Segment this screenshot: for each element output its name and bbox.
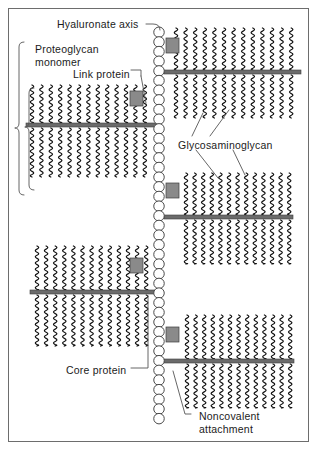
hyaluronate-unit-circle [154,143,165,154]
gag-chain-lower [185,364,188,408]
gag-chain-upper [106,85,109,123]
gag-chain-upper [203,315,206,359]
gag-chain-upper [236,173,239,215]
gag-chain-lower [270,75,273,118]
gag-chain-upper [30,85,33,123]
leader-link-protein [131,70,141,76]
gag-chain-upper [99,246,102,290]
gag-chain-lower [54,295,57,346]
gag-chain-lower [232,75,235,118]
hyaluronate-unit-circle [154,211,165,222]
gag-chain-lower [30,128,33,177]
hyaluronate-unit-circle [154,75,165,86]
core-protein-bar [164,359,294,363]
core-protein-bar [164,70,301,74]
gag-chain-lower [81,295,84,346]
gag-chain-upper [232,28,235,70]
hyaluronate-unit-circle [154,288,165,299]
gag-chain-lower [251,75,254,118]
gag-chain-lower [253,220,256,264]
gag-chain-lower [262,220,265,264]
gag-chain-upper [202,173,205,215]
link-protein-square [166,327,179,342]
hyaluronate-unit-circle [154,37,165,48]
monomer-left-1 [26,85,156,177]
label-glycosaminoglycan: Glycosaminoglycan [178,139,273,152]
gag-chain-upper [220,315,223,359]
hyaluronate-unit-circle [154,297,165,308]
gag-chain-upper [210,173,213,215]
gag-chain-lower [40,128,43,177]
gag-chain-upper [245,173,248,215]
gag-chain-lower [219,220,222,264]
gag-chain-upper [184,173,187,215]
label-proteoglycan-monomer: Proteoglycan monomer [35,43,99,68]
hyaluronate-unit-circle [154,95,165,106]
gag-chain-upper [49,85,52,123]
gag-chain-upper [242,28,245,70]
gag-chain-upper [213,28,216,70]
core-protein-bar [30,290,156,294]
gag-chain-lower [246,364,249,408]
gag-chain-lower [227,220,230,264]
hyaluronate-unit-circle [154,269,165,280]
gag-chain-upper [185,315,188,359]
proteoglycan-aggregate-figure: Hyaluronate axis Proteoglycan monomer Li… [0,0,319,457]
leader-gag-left [192,113,203,136]
gag-chain-lower [63,295,66,346]
gag-chain-upper [279,173,282,215]
hyaluronate-unit-circle [154,249,165,260]
hyaluronate-unit-circle [154,191,165,202]
gag-chain-lower [211,364,214,408]
gag-chain-upper [77,85,80,123]
gag-chain-upper [203,28,206,70]
hyaluronate-unit-circle [154,230,165,241]
gag-chain-upper [193,173,196,215]
link-protein-square [166,183,179,198]
gag-chain-lower [210,220,213,264]
gag-chain-upper [96,85,99,123]
gag-chain-lower [270,220,273,264]
gag-chain-lower [254,364,257,408]
gag-chain-upper [145,246,148,290]
hyaluronate-unit-circle [154,104,165,115]
gag-chain-upper [288,173,291,215]
hyaluronate-unit-circle [154,114,165,125]
gag-chain-lower [49,128,52,177]
gag-chain-upper [44,246,47,290]
monomer-bracket-inner [25,88,34,190]
gag-chain-lower [135,295,138,346]
gag-chain-upper [253,173,256,215]
hyaluronate-unit-circle [154,355,165,366]
core-protein-bar [26,123,156,127]
hyaluronate-unit-circle [154,182,165,193]
leader-hyaluronate-axis [146,24,160,30]
hyaluronate-unit-circle [154,133,165,144]
gag-chain-lower [290,75,293,118]
gag-chain-lower [108,295,111,346]
hyaluronate-unit-circle [154,278,165,289]
gag-chain-upper [194,28,197,70]
gag-chain-lower [77,128,80,177]
hyaluronate-unit-circle [154,56,165,66]
gag-chain-upper [270,28,273,70]
gag-chain-upper [134,85,137,123]
leader-noncovalent [173,371,191,414]
label-noncovalent-attachment: Noncovalent attachment [199,410,260,435]
gag-chain-upper [184,28,187,70]
gag-chain-upper [81,246,84,290]
gag-chain-upper [174,28,177,70]
gag-chain-upper [289,315,292,359]
gag-chain-upper [270,173,273,215]
hyaluronate-unit-circle [154,220,165,231]
hyaluronate-unit-circle [154,201,165,212]
gag-chain-upper [227,173,230,215]
gag-chain-upper [246,315,249,359]
hyaluronate-unit-circle [154,124,165,135]
hyaluronate-unit-circle [154,85,165,96]
gag-chain-lower [194,75,197,118]
gag-chain-lower [72,295,75,346]
gag-chain-lower [35,295,38,346]
gag-chain-upper [211,315,214,359]
gag-chain-upper [40,85,43,123]
